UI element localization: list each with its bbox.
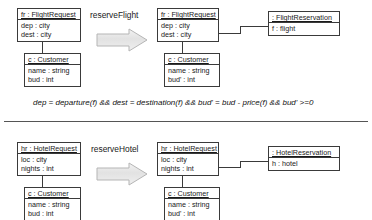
object-box-rhs-customer[interactable]: c : Customer name : string bud' : int [164, 53, 220, 87]
operation-label-reserve-hotel: reserveHotel [91, 144, 138, 154]
object-attribute: name : string [28, 200, 77, 209]
object-header-label: hr : HotelRequest [161, 144, 217, 153]
object-header: c : Customer [25, 54, 80, 65]
object-attributes: loc : city nights : int [158, 154, 218, 175]
link-flight-request-to-reservation-segment-b [240, 26, 270, 27]
object-header-label: : HotelReservation [272, 148, 331, 157]
link-hotel-request-to-reservation-segment-a [218, 167, 240, 168]
object-header-label: c : Customer [28, 189, 69, 198]
object-header-label: : FlightReservation [272, 13, 332, 22]
link-hotel-request-to-reservation-segment-b [240, 161, 270, 162]
object-attribute: loc : city [21, 155, 77, 164]
object-header: : HotelReservation [269, 147, 339, 158]
diagram-canvas: fr : FlightRequest dep : city dest : cit… [0, 0, 372, 220]
object-attribute: bud : int [28, 209, 77, 218]
block-arrow-right-icon [96, 162, 148, 186]
object-attribute: nights : int [21, 164, 77, 173]
object-header-label: fr : FlightRequest [21, 10, 76, 19]
object-header-label: c : Customer [28, 55, 69, 64]
object-box-lhs-flight-request[interactable]: fr : FlightRequest dep : city dest : cit… [17, 8, 81, 42]
object-box-rhs-flight-request[interactable]: fr : FlightRequest dep : city dest : cit… [157, 8, 219, 42]
object-header-label: hr : HotelRequest [21, 144, 77, 153]
object-attributes: f : flight [269, 23, 339, 35]
section-divider [4, 121, 368, 122]
block-arrow-right-icon [96, 28, 148, 52]
object-box-lhs-hotel-customer[interactable]: c : Customer name : string bud : int [24, 187, 81, 220]
link-flight-request-to-reservation-bend [240, 26, 241, 34]
object-attributes: dep : city dest : city [18, 20, 80, 41]
object-attribute: dep : city [161, 21, 215, 30]
object-header: fr : FlightRequest [158, 9, 218, 20]
object-attributes: dep : city dest : city [158, 20, 218, 41]
object-header: hr : HotelRequest [18, 143, 80, 154]
object-header-label: c : Customer [168, 189, 209, 198]
object-attribute: bud : int [28, 75, 77, 84]
object-header-label: c : Customer [168, 55, 209, 64]
object-attribute: name : string [168, 200, 216, 209]
object-header: fr : FlightRequest [18, 9, 80, 20]
object-attribute: name : string [168, 66, 216, 75]
object-attribute: dest : city [21, 30, 77, 39]
object-box-rhs-hotel-customer[interactable]: c : Customer name : string bud' : int [164, 187, 220, 220]
object-header-label: fr : FlightRequest [161, 10, 216, 19]
object-attribute: f : flight [272, 24, 336, 33]
link-flight-request-to-reservation-segment-a [218, 33, 240, 34]
object-attribute: bud' : int [168, 209, 216, 218]
object-attribute: dep : city [21, 21, 77, 30]
object-header: c : Customer [165, 188, 219, 199]
object-attributes: name : string bud : int [25, 65, 80, 86]
link-hotel-request-to-reservation-bend [240, 161, 241, 168]
object-attribute: h : hotel [272, 159, 336, 168]
object-attribute: loc : city [161, 155, 215, 164]
object-box-flight-reservation[interactable]: : FlightReservation f : flight [268, 11, 340, 36]
object-box-rhs-hotel-request[interactable]: hr : HotelRequest loc : city nights : in… [157, 142, 219, 176]
object-attribute: dest : city [161, 30, 215, 39]
object-attribute: nights : int [161, 164, 215, 173]
condition-equation: dep = departure(f) && dest = destination… [33, 98, 313, 108]
object-attributes: name : string bud : int [25, 199, 80, 220]
object-box-lhs-customer[interactable]: c : Customer name : string bud : int [24, 53, 81, 87]
object-attributes: h : hotel [269, 158, 339, 170]
object-attributes: loc : city nights : int [18, 154, 80, 175]
object-header: c : Customer [25, 188, 80, 199]
object-box-hotel-reservation[interactable]: : HotelReservation h : hotel [268, 146, 340, 171]
object-header: : FlightReservation [269, 12, 339, 23]
object-attribute: bud' : int [168, 75, 216, 84]
object-header: c : Customer [165, 54, 219, 65]
object-box-lhs-hotel-request[interactable]: hr : HotelRequest loc : city nights : in… [17, 142, 81, 176]
object-header: hr : HotelRequest [158, 143, 218, 154]
object-attribute: name : string [28, 66, 77, 75]
object-attributes: name : string bud' : int [165, 199, 219, 220]
operation-label-reserve-flight: reserveFlight [90, 10, 138, 20]
object-attributes: name : string bud' : int [165, 65, 219, 86]
